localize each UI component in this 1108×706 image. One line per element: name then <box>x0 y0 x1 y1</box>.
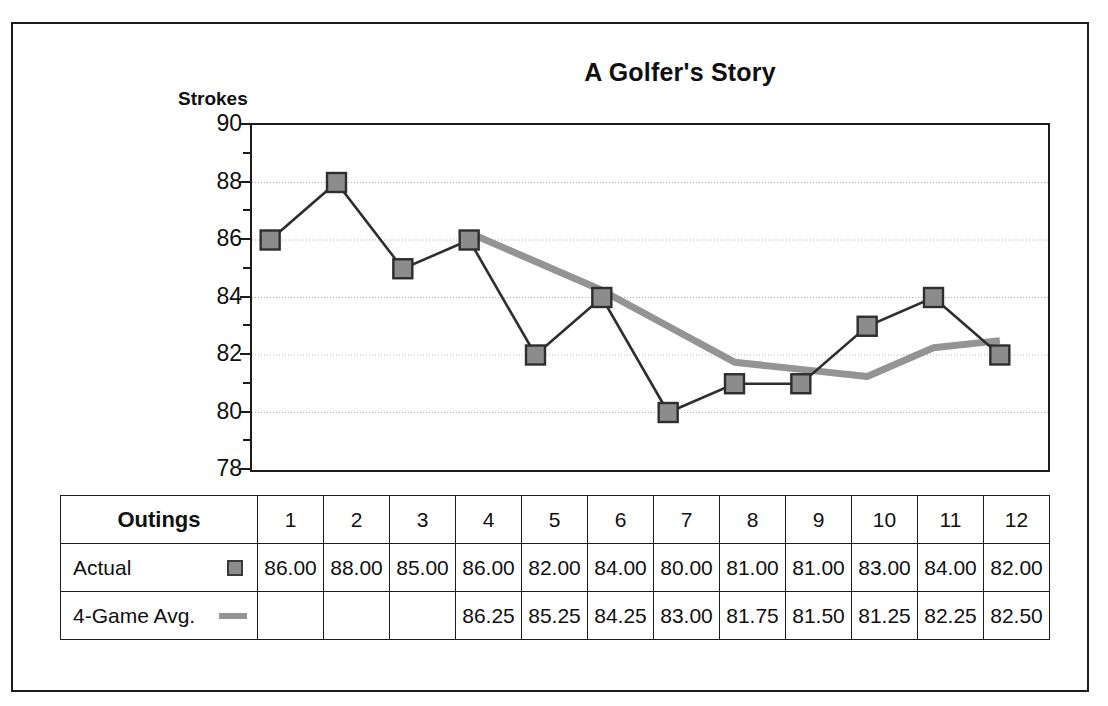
table-row-label: 4-Game Avg. <box>61 592 258 640</box>
table-column-header: 3 <box>390 496 456 544</box>
y-tick-label: 88 <box>182 170 242 193</box>
table-cell: 81.00 <box>720 544 786 592</box>
table-cell: 83.00 <box>654 592 720 640</box>
table-cell: 85.25 <box>522 592 588 640</box>
chart-page: A Golfer's Story Strokes 90888684828078 … <box>0 0 1108 706</box>
y-axis-title: Strokes <box>178 88 248 110</box>
data-point-marker <box>526 346 545 365</box>
table-body: Actual86.0088.0085.0086.0082.0084.0080.0… <box>61 544 1050 640</box>
table-cell: 86.00 <box>258 544 324 592</box>
y-tick-label: 86 <box>182 227 242 250</box>
table-column-header: 5 <box>522 496 588 544</box>
table-cell: 81.25 <box>852 592 918 640</box>
table-header-outings: Outings <box>61 496 258 544</box>
table-cell: 80.00 <box>654 544 720 592</box>
table-row-label-text: 4-Game Avg. <box>73 604 195 627</box>
data-point-marker <box>858 317 877 336</box>
table-cell: 84.00 <box>918 544 984 592</box>
table-cell <box>258 592 324 640</box>
data-point-marker <box>327 173 346 192</box>
table-cell: 81.50 <box>786 592 852 640</box>
table-cell: 83.00 <box>852 544 918 592</box>
table-column-header: 9 <box>786 496 852 544</box>
table-cell <box>390 592 456 640</box>
table-column-header: 6 <box>588 496 654 544</box>
table-cell: 86.00 <box>456 544 522 592</box>
plot-svg <box>252 125 1048 470</box>
y-tick-label: 84 <box>182 285 242 308</box>
data-point-marker <box>592 288 611 307</box>
series-line-actual <box>270 183 1000 413</box>
data-point-marker <box>725 374 744 393</box>
series-line-4-game-avg <box>469 233 1000 377</box>
data-point-marker <box>659 403 678 422</box>
table-cell: 86.25 <box>456 592 522 640</box>
data-table: Outings 123456789101112 Actual86.0088.00… <box>60 495 1050 640</box>
plot-area <box>250 123 1050 472</box>
y-tick-label: 80 <box>182 400 242 423</box>
table-cell: 82.25 <box>918 592 984 640</box>
table-row-label: Actual <box>61 544 258 592</box>
table-cell: 88.00 <box>324 544 390 592</box>
table-cell <box>324 592 390 640</box>
table-header-row: Outings 123456789101112 <box>61 496 1050 544</box>
table-column-header: 12 <box>984 496 1050 544</box>
table-column-header: 4 <box>456 496 522 544</box>
data-point-marker <box>990 346 1009 365</box>
table-column-header: 11 <box>918 496 984 544</box>
table-cell: 82.50 <box>984 592 1050 640</box>
y-tick-label: 82 <box>182 342 242 365</box>
data-point-marker <box>791 374 810 393</box>
table-column-header: 7 <box>654 496 720 544</box>
table-cell: 81.75 <box>720 592 786 640</box>
data-point-marker <box>393 259 412 278</box>
table-column-header: 8 <box>720 496 786 544</box>
y-axis-tick-labels: 90888684828078 <box>180 123 242 472</box>
table-column-header: 1 <box>258 496 324 544</box>
table-cell: 84.00 <box>588 544 654 592</box>
table-row: Actual86.0088.0085.0086.0082.0084.0080.0… <box>61 544 1050 592</box>
page-title: A Golfer's Story <box>430 58 930 87</box>
data-point-marker <box>924 288 943 307</box>
table-row: 4-Game Avg.86.2585.2584.2583.0081.7581.5… <box>61 592 1050 640</box>
table-cell: 84.25 <box>588 592 654 640</box>
data-point-marker <box>460 231 479 250</box>
table-column-header: 2 <box>324 496 390 544</box>
table-cell: 85.00 <box>390 544 456 592</box>
table-cell: 81.00 <box>786 544 852 592</box>
legend-square-swatch-icon <box>227 560 243 576</box>
y-tick-label: 90 <box>182 112 242 135</box>
table-column-header: 10 <box>852 496 918 544</box>
table-cell: 82.00 <box>984 544 1050 592</box>
data-point-marker <box>261 231 280 250</box>
table-row-label-text: Actual <box>73 556 131 579</box>
legend-line-swatch-icon <box>219 613 247 619</box>
table-cell: 82.00 <box>522 544 588 592</box>
y-tick-label: 78 <box>182 457 242 480</box>
